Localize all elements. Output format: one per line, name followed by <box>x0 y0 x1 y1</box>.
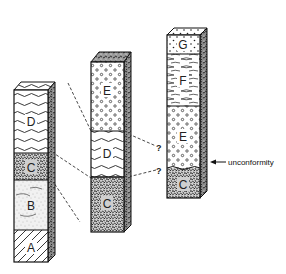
stratigraphic-diagram: D C B A E D C ? ? G <box>0 0 286 274</box>
question-mark-upper: ? <box>156 143 162 153</box>
column-3: G F E C <box>167 28 207 198</box>
layer-label-e: E <box>103 84 111 98</box>
question-mark-lower: ? <box>156 166 162 176</box>
layer-label-c: C <box>103 197 112 211</box>
column-1: D C B A <box>14 82 55 262</box>
layer-label-e: E <box>179 130 187 144</box>
layer-label-d: D <box>27 115 36 129</box>
column-2: E D C <box>91 52 131 232</box>
layer-label-g: G <box>178 38 187 52</box>
layer-label-d: D <box>103 147 112 161</box>
unconformity-label: unconformity <box>228 158 274 167</box>
layer-label-f: F <box>179 74 186 88</box>
layer-label-c: C <box>179 178 188 192</box>
layer-label-b: B <box>27 199 35 213</box>
layer-label-c: C <box>27 161 36 175</box>
unconformity-annotation: unconformity <box>210 158 274 167</box>
layer-label-a: A <box>27 241 35 255</box>
